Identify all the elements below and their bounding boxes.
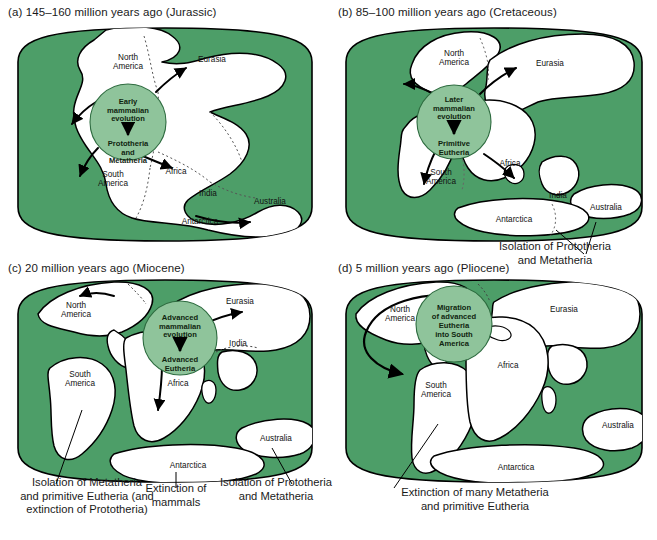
label-eurasia-b: Eurasia xyxy=(536,59,564,68)
label-africa-a: Africa xyxy=(166,167,187,176)
caption-c3-line-2: and Metatheria xyxy=(214,490,338,504)
label-australia-d: Australia xyxy=(602,421,634,430)
label-antarctica-b: Antarctica xyxy=(496,215,533,224)
label-eurasia-a: Eurasia xyxy=(198,55,226,64)
label-north-america-d: North xyxy=(390,305,410,314)
label-north-america-c: North xyxy=(66,301,86,310)
panel-b: (b) 85–100 million years ago (Cretaceous… xyxy=(330,0,657,255)
label-south-america2-b: America xyxy=(426,177,456,186)
label-south-america-c: South xyxy=(69,370,91,379)
caption-c2-line-2: mammals xyxy=(128,496,224,510)
label-south-america2-d: America xyxy=(421,390,451,399)
label-india-b: India xyxy=(549,191,567,200)
label-north-america2-b: America xyxy=(439,58,469,67)
label-australia-c: Australia xyxy=(260,434,292,443)
map-svg-b: Later mammalian evolution Primitive Euth… xyxy=(338,22,650,247)
caption-d-line-1: Extinction of many Metatheria xyxy=(360,486,590,500)
circle-d-line-4: into South xyxy=(435,330,473,339)
caption-c-extinction-mammals: Extinction of mammals xyxy=(128,482,224,509)
circle-b-top-3: evolution xyxy=(437,112,471,121)
label-south-america-a: South xyxy=(102,170,124,179)
label-africa-b: Africa xyxy=(500,159,521,168)
label-antarctica-d: Antarctica xyxy=(498,463,535,472)
label-australia-a: Australia xyxy=(254,197,286,206)
circle-c-top-3: evolution xyxy=(163,330,197,339)
panel-c: (c) 20 million years ago (Miocene) xyxy=(0,258,330,540)
label-australia-b: Australia xyxy=(590,203,622,212)
land-india-c xyxy=(217,351,257,391)
land-india-b xyxy=(539,156,579,195)
circle-c-bot-2: Eutheria xyxy=(165,364,196,373)
circle-b-bot-2: Eutheria xyxy=(439,148,470,157)
panel-d-map: Migration of advanced Eutheria into Sout… xyxy=(338,276,650,488)
label-antarctica-a: Antarctica xyxy=(182,217,219,226)
label-south-america2-a: America xyxy=(98,179,128,188)
panel-c-map: Advanced mammalian evolution Advanced Eu… xyxy=(10,276,320,488)
map-svg-a: Early mammalian evolution Prototheria an… xyxy=(10,22,320,247)
panel-a-map: Early mammalian evolution Prototheria an… xyxy=(10,22,320,247)
caption-d-extinction: Extinction of many Metatheria and primit… xyxy=(360,486,590,513)
label-north-america-b: North xyxy=(444,49,464,58)
panel-b-title: (b) 85–100 million years ago (Cretaceous… xyxy=(338,6,557,18)
caption-b-line-1: Isolation of Prototheria xyxy=(460,240,650,254)
label-africa-d: Africa xyxy=(498,361,519,370)
caption-c3-line-1: Isolation of Prototheria xyxy=(214,476,338,490)
panel-b-map: Later mammalian evolution Primitive Euth… xyxy=(338,22,650,247)
circle-d-line-1: Migration xyxy=(437,303,472,312)
label-antarctica-c: Antarctica xyxy=(170,461,207,470)
label-south-america-d: South xyxy=(425,381,447,390)
circle-a-bot-3: Metatheria xyxy=(109,156,148,165)
map-svg-d: Migration of advanced Eutheria into Sout… xyxy=(338,276,650,488)
label-india-a: India xyxy=(199,189,217,198)
label-north-america-a: North xyxy=(118,53,138,62)
circle-d-line-5: America xyxy=(439,339,470,348)
label-south-america-b: South xyxy=(430,168,452,177)
caption-c2-line-1: Extinction of xyxy=(128,482,224,496)
panel-d-title: (d) 5 million years ago (Pliocene) xyxy=(338,262,510,274)
caption-c-isolation-prototheria: Isolation of Prototheria and Metatheria xyxy=(214,476,338,503)
label-eurasia-c: Eurasia xyxy=(226,297,254,306)
label-eurasia-d: Eurasia xyxy=(550,305,578,314)
label-north-america2-d: America xyxy=(385,314,415,323)
label-africa-c: Africa xyxy=(168,379,189,388)
circle-d-line-3: Eutheria xyxy=(439,321,470,330)
label-north-america2-c: America xyxy=(61,310,91,319)
panel-d: (d) 5 million years ago (Pliocene) xyxy=(330,258,657,540)
land-madagascar-c xyxy=(202,380,216,403)
circle-a-top-3: evolution xyxy=(111,114,145,123)
panel-c-title: (c) 20 million years ago (Miocene) xyxy=(8,262,185,274)
label-north-america2-a: America xyxy=(113,62,143,71)
map-svg-c: Advanced mammalian evolution Advanced Eu… xyxy=(10,276,320,488)
panel-a-title: (a) 145–160 million years ago (Jurassic) xyxy=(8,6,217,18)
panel-a: (a) 145–160 million years ago (Jurassic) xyxy=(0,0,330,255)
land-india-d xyxy=(547,345,587,385)
land-madagascar-d xyxy=(542,387,556,414)
label-india-c: India xyxy=(229,339,247,348)
circle-d-line-2: of advanced xyxy=(432,312,477,321)
caption-d-line-2: and primitive Eutheria xyxy=(360,500,590,514)
label-south-america2-c: America xyxy=(65,379,95,388)
